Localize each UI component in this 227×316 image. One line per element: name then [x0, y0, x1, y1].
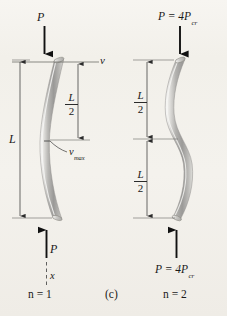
- left-length-label: L: [9, 133, 16, 145]
- left-mode-label: n = 1: [28, 289, 52, 301]
- max-deflection-label: vmax: [69, 147, 85, 160]
- max-deflection-symbol: v: [69, 146, 74, 157]
- right-top-load-label: P = 4Pcr: [158, 11, 197, 25]
- left-top-load-label: P: [37, 11, 44, 23]
- right-upper-half-length-numerator: L: [134, 90, 147, 102]
- v-axis-label: v: [100, 55, 105, 66]
- figure-caption: (c): [105, 289, 118, 301]
- right-top-load-expression: P = 4P: [158, 10, 191, 22]
- right-lower-half-length-numerator: L: [134, 169, 147, 181]
- x-axis-label: x: [50, 271, 55, 282]
- right-bottom-load-expression: P = 4P: [155, 263, 188, 275]
- right-bottom-load-subscript: cr: [188, 272, 194, 280]
- left-column-body: [40, 56, 65, 221]
- right-upper-half-length-denominator: 2: [134, 103, 147, 115]
- right-bottom-load-label: P = 4Pcr: [155, 264, 194, 278]
- left-half-length-numerator: L: [65, 92, 78, 104]
- right-lower-half-length-denominator: 2: [134, 182, 147, 194]
- right-top-load-subscript: cr: [191, 19, 197, 27]
- buckling-modes-figure: P v L L 2 vmax P x n = 1 (c) P = 4Pcr L …: [0, 0, 227, 316]
- left-half-length-denominator: 2: [65, 105, 78, 117]
- left-half-length-fraction: L 2: [65, 92, 78, 117]
- right-upper-half-length-fraction: L 2: [134, 90, 147, 115]
- right-lower-half-length-fraction: L 2: [134, 169, 147, 194]
- vmax-leader-line: [50, 141, 67, 152]
- max-deflection-subscript: max: [74, 154, 85, 161]
- left-bottom-load-label: P: [50, 243, 57, 255]
- right-mode-label: n = 2: [163, 289, 187, 301]
